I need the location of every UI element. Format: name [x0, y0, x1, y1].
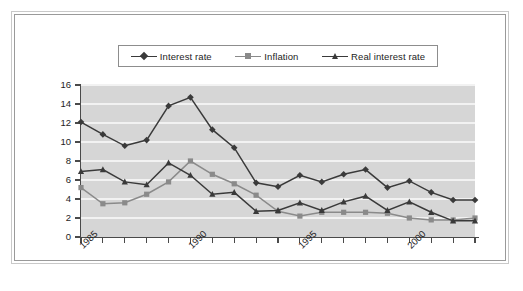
gridline [81, 103, 475, 104]
y-axis-tick-label: 14 [45, 98, 71, 109]
legend-marker-triangle-icon [322, 51, 348, 61]
legend-label-real-interest-rate: Real interest rate [351, 51, 425, 62]
figure-frame: Interest rate Inflation Real interest ra… [14, 14, 506, 261]
gridline [81, 198, 475, 199]
gridline [81, 122, 475, 123]
legend-item-real-interest-rate: Real interest rate [322, 51, 425, 62]
y-axis-tick-label: 2 [45, 212, 71, 223]
x-axis-tick-mark [321, 238, 322, 243]
x-axis-tick-mark [146, 238, 147, 243]
y-axis-tick-mark [75, 160, 80, 161]
x-axis-tick-mark [212, 238, 213, 243]
x-axis-tick-mark [124, 238, 125, 243]
triangle-marker-icon [332, 53, 338, 59]
y-axis-tick-mark [75, 84, 80, 85]
x-axis-tick-mark [168, 238, 169, 243]
y-axis-tick-label: 8 [45, 155, 71, 166]
y-axis-tick-label: 12 [45, 117, 71, 128]
y-axis-tick-label: 10 [45, 136, 71, 147]
y-axis-tick-mark [75, 217, 80, 218]
legend-marker-diamond-icon [131, 51, 157, 61]
gridline [81, 179, 475, 180]
y-axis-tick-label: 16 [45, 79, 71, 90]
x-axis-tick-mark [474, 238, 475, 243]
gridline [81, 217, 475, 218]
x-axis-tick-mark [387, 238, 388, 243]
x-axis-tick-mark [102, 238, 103, 243]
y-axis-tick-label: 6 [45, 174, 71, 185]
y-axis-tick-mark [75, 103, 80, 104]
x-axis-tick-mark [365, 238, 366, 243]
x-axis-tick-mark [431, 238, 432, 243]
y-axis-tick-label: 0 [45, 231, 71, 242]
x-axis-tick-mark [277, 238, 278, 243]
y-axis-line [80, 84, 81, 238]
x-axis-tick-mark [256, 238, 257, 243]
legend-label-interest-rate: Interest rate [160, 51, 212, 62]
x-axis-tick-mark [343, 238, 344, 243]
gridline [81, 84, 475, 85]
line-chart: Interest rate Inflation Real interest ra… [15, 15, 505, 260]
square-marker-icon [245, 53, 251, 59]
y-axis-tick-mark [75, 141, 80, 142]
y-axis-tick-mark [75, 179, 80, 180]
chart-legend: Interest rate Inflation Real interest ra… [118, 45, 438, 67]
x-axis-tick-mark [234, 238, 235, 243]
x-axis-tick-mark [453, 238, 454, 243]
gridline [81, 141, 475, 142]
diamond-marker-icon [140, 52, 148, 60]
y-axis-tick-mark [75, 122, 80, 123]
legend-item-interest-rate: Interest rate [131, 51, 212, 62]
y-axis-tick-label: 4 [45, 193, 71, 204]
legend-label-inflation: Inflation [264, 51, 298, 62]
plot-area [81, 85, 475, 237]
caption-sliver [20, 283, 350, 291]
legend-item-inflation: Inflation [235, 51, 298, 62]
gridline [81, 160, 475, 161]
y-axis-tick-mark [75, 198, 80, 199]
y-axis-tick-mark [75, 236, 80, 237]
legend-marker-square-icon [235, 51, 261, 61]
